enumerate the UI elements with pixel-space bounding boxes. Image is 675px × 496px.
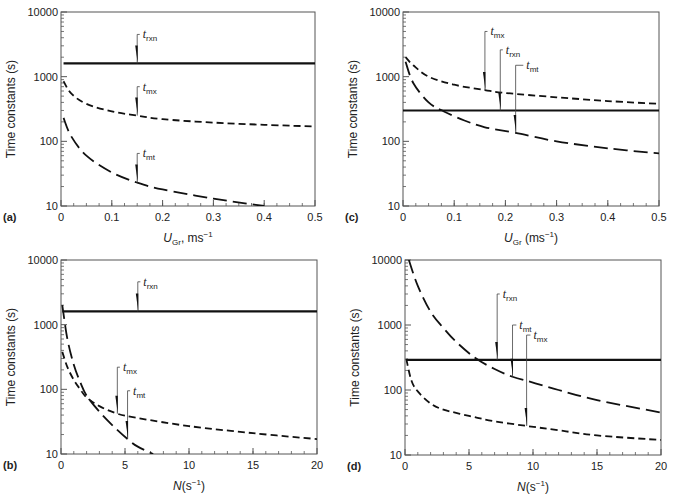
series-t-mx [62,352,317,439]
x-tick-label: 0.1 [104,211,119,223]
y-tick-label: 1000 [34,319,58,331]
plot-frame [405,260,661,455]
x-tick-label: 10 [183,459,195,471]
y-axis-title: Time constants (s) [348,308,362,406]
x-tick-label: 0.5 [651,211,666,223]
annotation-label-rxn: trxn [506,43,520,59]
annotation-label-rxn: trxn [503,287,517,303]
series-t-mx [406,359,661,440]
annotation-label-mx: tmx [123,360,137,376]
chart-panel-d: 1010010001000005101520(d)Time constants … [347,254,667,494]
series-t-mx [406,57,659,104]
y-tick-label: 10 [46,200,58,212]
y-tick-label: 100 [40,383,58,395]
y-tick-label: 10 [390,449,402,461]
plot-frame [61,260,317,454]
x-tick-label: 15 [591,460,603,472]
y-tick-label: 10000 [27,6,58,18]
x-tick-label: 5 [122,459,128,471]
y-axis-title: Time constants (s) [346,60,360,158]
annotation-label-mt: tmt [526,58,539,74]
x-tick-label: 0 [58,211,64,223]
x-tick-label: 0.3 [206,211,221,223]
x-tick-label: 0.5 [307,211,322,223]
x-axis-title: N(s−1) [173,478,205,493]
annotation-label-mt: tmt [133,384,146,400]
annotation-arrow-icon [126,421,129,439]
chart-panel-b: 1010010001000005101520(b)Time constants … [3,254,323,493]
x-tick-label: 0.2 [498,211,513,223]
x-tick-label: 0.4 [600,211,615,223]
y-tick-label: 10000 [371,254,402,266]
y-tick-label: 10 [46,448,58,460]
annotation-label-mt: tmt [143,146,156,162]
annotation-label-mx: tmx [533,328,547,344]
x-axis-title: UGr, ms−1 [163,230,213,247]
x-tick-label: 0.1 [447,211,462,223]
annotation-label-rxn: trxn [143,275,157,291]
x-tick-label: 0 [402,460,408,472]
x-tick-label: 15 [247,459,259,471]
x-tick-label: 20 [311,459,323,471]
y-tick-label: 10000 [27,254,58,266]
y-tick-label: 100 [384,384,402,396]
y-tick-label: 1000 [376,71,400,83]
x-tick-label: 10 [527,460,539,472]
annotation-arrow-icon [525,408,528,426]
y-tick-label: 100 [40,135,58,147]
annotation-arrow-icon [136,293,139,311]
annotation-label-mx: tmx [490,24,504,40]
annotation-arrow-icon [135,45,138,63]
x-tick-label: 5 [466,460,472,472]
annotation-label-mt: tmt [519,318,532,334]
panel-label: (c) [345,211,359,223]
panel-label: (a) [3,211,17,223]
annotation-arrow-icon [115,396,118,414]
series-t-mt [64,118,265,206]
x-axis-title: N(s−1) [517,479,549,494]
x-tick-label: 0 [400,211,406,223]
x-tick-label: 0.2 [155,211,170,223]
y-tick-label: 10000 [369,6,400,18]
panel-label: (b) [3,459,17,471]
figure-canvas: 1010010001000000.10.20.30.40.5(a)Time co… [0,0,675,496]
annotation-arrow-icon [511,359,514,377]
y-tick-label: 100 [382,135,400,147]
series-t-mx [64,81,315,126]
x-tick-label: 0 [58,459,64,471]
panel-label: (d) [347,460,361,472]
plot-frame [403,12,659,206]
annotation-label-rxn: trxn [143,27,157,43]
annotation-arrow-icon [495,342,498,360]
chart-panel-c: 1010010001000000.10.20.30.40.5(c)Time co… [345,6,667,247]
y-axis-title: Time constants (s) [4,60,18,158]
x-axis-title: UGr (ms−1) [504,230,558,247]
y-tick-label: 1000 [378,319,402,331]
annotation-label-mx: tmx [143,80,157,96]
x-tick-label: 20 [655,460,667,472]
series-t-mt [62,305,153,454]
x-tick-label: 0.3 [549,211,564,223]
y-tick-label: 1000 [34,71,58,83]
y-axis-title: Time constants (s) [4,308,18,406]
series-t-mt [406,62,659,154]
chart-panel-a: 1010010001000000.10.20.30.40.5(a)Time co… [3,6,323,247]
x-tick-label: 0.4 [257,211,272,223]
y-tick-label: 10 [388,200,400,212]
